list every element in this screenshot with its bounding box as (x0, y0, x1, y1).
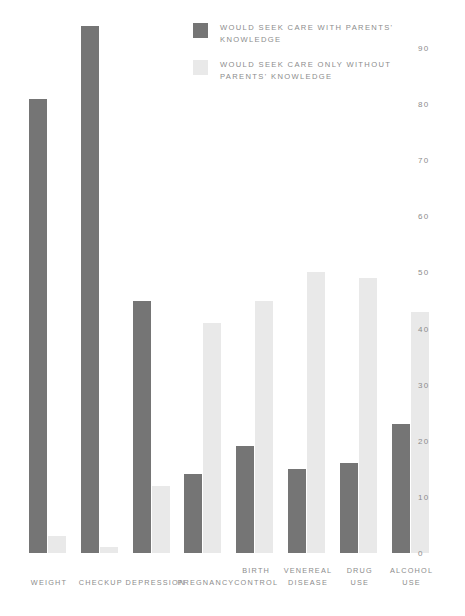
y-axis-tick: 60 (418, 212, 448, 221)
bar-with-parents[interactable] (184, 474, 202, 553)
bar-with-parents[interactable] (133, 301, 151, 554)
bar-pair (81, 33, 121, 553)
bar-with-parents[interactable] (392, 424, 410, 553)
y-axis-tick: 10 (418, 492, 448, 501)
y-axis-tick: 40 (418, 324, 448, 333)
bar-without-parents[interactable] (48, 536, 66, 553)
bar-with-parents[interactable] (81, 26, 99, 553)
x-axis-label: DRUG USE (333, 565, 387, 588)
bar-without-parents[interactable] (203, 323, 221, 553)
bar-with-parents[interactable] (236, 446, 254, 553)
y-axis-tick: 0 (418, 549, 448, 558)
y-axis-tick: 90 (418, 44, 448, 53)
bar-pair (288, 33, 328, 553)
bar-pair (29, 33, 69, 553)
x-axis-label: DEPRESSION (126, 577, 180, 589)
bar-pair (133, 33, 173, 553)
bar-without-parents[interactable] (307, 272, 325, 553)
y-axis-tick: 70 (418, 156, 448, 165)
y-axis: 9080706050403020100 (418, 0, 458, 616)
y-axis-tick: 50 (418, 268, 448, 277)
x-axis-label: VENEREAL DISEASE (281, 565, 335, 588)
plot-area: WEIGHTCHECKUPDEPRESSIONPREGNANCYBIRTH CO… (0, 0, 412, 616)
y-axis-tick: 20 (418, 436, 448, 445)
bar-pair (340, 33, 380, 553)
x-axis-label: CHECKUP (74, 577, 128, 589)
bar-with-parents[interactable] (29, 99, 47, 554)
y-axis-tick: 80 (418, 100, 448, 109)
bar-with-parents[interactable] (288, 469, 306, 553)
x-axis-label: WEIGHT (22, 577, 76, 589)
x-axis-label: BIRTH CONTROL (229, 565, 283, 588)
bar-without-parents[interactable] (255, 301, 273, 554)
x-axis-label: PREGNANCY (177, 577, 231, 589)
bar-with-parents[interactable] (340, 463, 358, 553)
bar-pair (236, 33, 276, 553)
bar-without-parents[interactable] (152, 486, 170, 553)
y-axis-tick: 30 (418, 380, 448, 389)
bar-without-parents[interactable] (100, 547, 118, 553)
bar-pair (184, 33, 224, 553)
bar-without-parents[interactable] (359, 278, 377, 553)
bar-chart: WOULD SEEK CARE WITH PARENTS' KNOWLEDGE … (0, 0, 465, 616)
